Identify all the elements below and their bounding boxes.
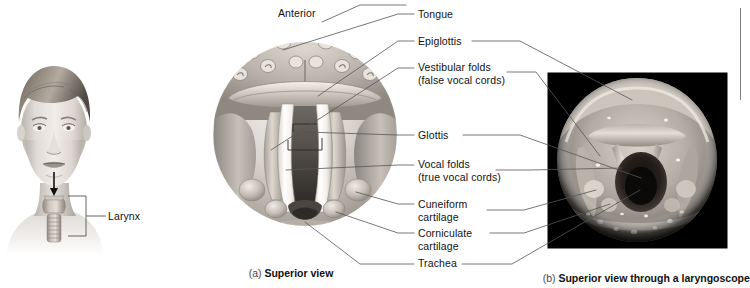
leader-epiglottis-right (472, 41, 632, 100)
label-corniculate-cartilage-line2: cartilage (418, 240, 459, 253)
leader-vocal-left (286, 165, 414, 170)
label-corniculate-cartilage-line1: Corniculate (418, 227, 472, 240)
glottis-marker (288, 124, 322, 150)
label-vestibular-folds-line2: (false vocal cords) (418, 74, 505, 87)
larynx-leader (68, 196, 106, 236)
caption-panel-a: (a) Superior view (237, 255, 333, 288)
leader-vocal-right (496, 168, 622, 170)
caption-b-text: Superior view through a laryngoscope (558, 272, 749, 284)
leader-glottis-left (305, 132, 414, 135)
caption-a-text: Superior view (264, 267, 333, 279)
label-tongue: Tongue (418, 8, 453, 21)
superior-view-illustration (212, 30, 398, 252)
page-edge-rule (740, 8, 741, 100)
leader-anterior (322, 5, 406, 22)
label-epiglottis: Epiglottis (418, 35, 462, 48)
label-vestibular-folds-line1: Vestibular folds (418, 61, 491, 74)
caption-a-index: (a) (249, 267, 262, 279)
label-glottis: Glottis (418, 129, 448, 142)
leader-cuneiform-right (487, 190, 596, 210)
label-cuneiform-cartilage-line2: cartilage (418, 211, 459, 224)
leader-epiglottis-left (318, 41, 414, 96)
label-vocal-folds-line1: Vocal folds (418, 158, 470, 171)
label-larynx: Larynx (108, 210, 140, 223)
laryngoscope-photograph (548, 73, 727, 248)
caption-panel-b: (b) Superior view through a laryngoscope (531, 260, 750, 288)
leader-corniculate-right (490, 204, 610, 233)
label-trachea: Trachea (418, 257, 457, 270)
label-anterior: Anterior (278, 7, 316, 20)
label-vocal-folds-line2: (true vocal cords) (418, 171, 501, 184)
leader-vestibular-left (271, 68, 414, 150)
leader-corniculate-left (336, 212, 414, 233)
orientation-head-illustration (6, 66, 106, 255)
leader-vestibular-right (507, 72, 600, 156)
leader-trachea-right (462, 190, 640, 264)
label-cuneiform-cartilage-line1: Cuneiform (418, 198, 467, 211)
leader-cuneiform-left (356, 192, 414, 204)
caption-b-index: (b) (543, 272, 556, 284)
